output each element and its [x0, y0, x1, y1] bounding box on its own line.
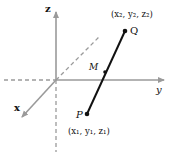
z-axis-label: z [45, 3, 51, 14]
negative-x-axis-dashed [56, 36, 100, 80]
point-m-dot [103, 70, 107, 74]
point-m-label: M [88, 62, 99, 72]
point-q-coords: (x₂, y₂, z₂) [111, 9, 153, 19]
x-axis-label: x [14, 102, 21, 113]
point-q-dot [123, 29, 128, 34]
coordinate-diagram: z y x (x₂, y₂, z₂) Q M P (x₁, y₁, z₁) [0, 0, 176, 154]
y-axis-label: y [155, 84, 162, 95]
point-p-label: P [75, 109, 83, 120]
point-q-label: Q [130, 25, 138, 36]
point-p-dot [85, 112, 90, 117]
point-p-coords: (x₁, y₁, z₁) [68, 126, 110, 136]
x-axis [22, 80, 56, 117]
